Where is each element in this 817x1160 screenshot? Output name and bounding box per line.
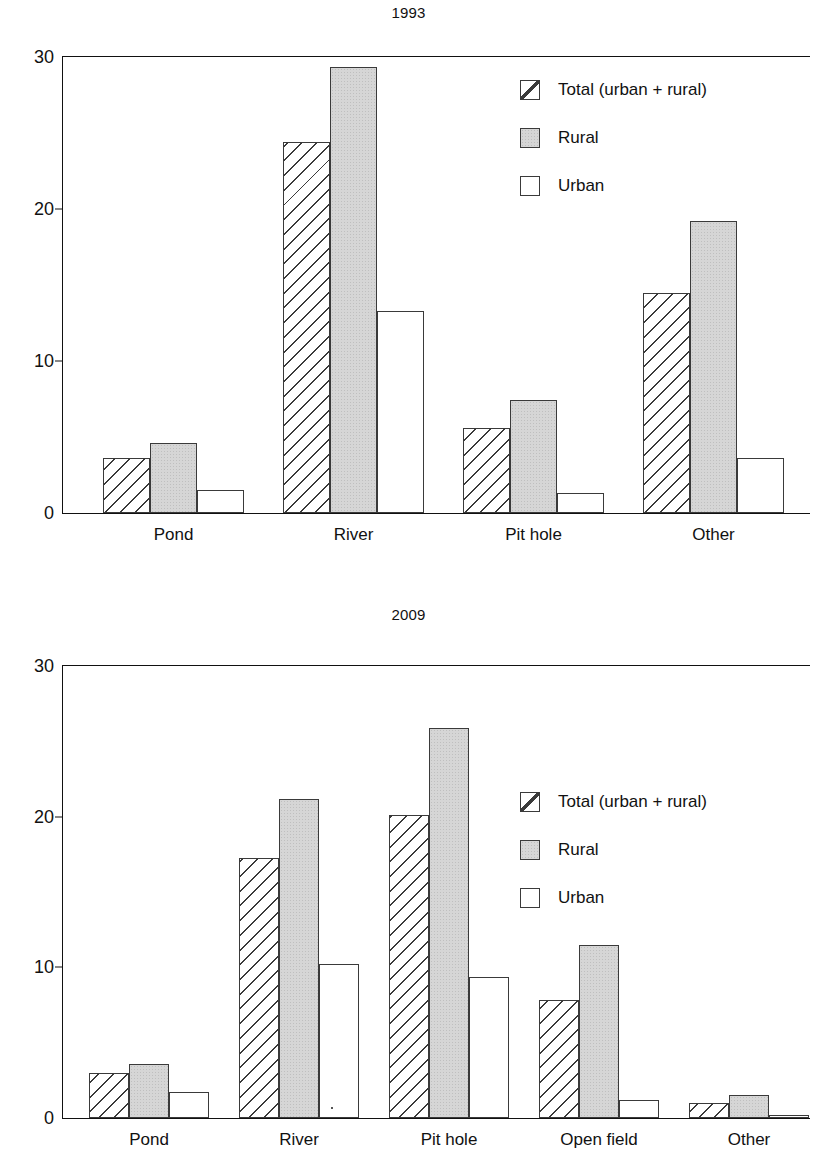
x-axis-label-pit-hole: Pit hole [421, 1130, 478, 1150]
y-tick-mark [55, 360, 63, 361]
bar-river-urban [319, 964, 359, 1118]
x-axis-label-pond: Pond [129, 1130, 169, 1150]
legend-2009: Total (urban + rural) Rural Urban [520, 790, 707, 934]
bar-pond-rural [150, 443, 197, 513]
bar-river-urban [377, 311, 424, 513]
bar-river-rural [330, 67, 377, 513]
bar-open-field-urban [619, 1100, 659, 1118]
bar-pond-urban [197, 490, 244, 513]
bar-pit-hole-rural [429, 728, 469, 1118]
white-swatch-icon [520, 176, 540, 196]
legend-label-urban: Urban [558, 888, 604, 908]
bar-other-total [643, 293, 690, 513]
y-tick-mark [55, 208, 63, 209]
bar-pit-hole-total [389, 815, 429, 1118]
legend-label-urban: Urban [558, 176, 604, 196]
chart-figure-2009: 2009 30 20 10 0 PondRiverPit holeOpen fi… [0, 600, 817, 1160]
hatched-swatch-icon [520, 80, 540, 100]
bar-pond-rural [129, 1064, 169, 1118]
legend-label-total: Total (urban + rural) [558, 80, 707, 100]
gray-filled-swatch-icon [520, 840, 540, 860]
scan-speck [331, 1107, 333, 1109]
bar-pit-hole-urban [557, 493, 604, 513]
legend-item-rural: Rural [520, 838, 707, 862]
bar-pit-hole-urban [469, 977, 509, 1118]
bar-pit-hole-rural [510, 400, 557, 513]
legend-item-rural: Rural [520, 126, 707, 150]
x-axis-label-other: Other [728, 1130, 771, 1150]
hatched-swatch-icon [520, 792, 540, 812]
legend-1993: Total (urban + rural) Rural Urban [520, 78, 707, 222]
legend-item-total: Total (urban + rural) [520, 790, 707, 814]
gray-filled-swatch-icon [520, 128, 540, 148]
bar-other-rural [690, 221, 737, 513]
bar-other-urban [737, 458, 784, 513]
bar-pond-total [89, 1073, 129, 1118]
y-tick-mark [55, 816, 63, 817]
bar-other-rural [729, 1095, 769, 1118]
x-axis-label-open-field: Open field [560, 1130, 638, 1150]
chart-figure-1993: 1993 30 20 10 0 PondRiverPit holeOther T… [0, 0, 817, 580]
bar-other-total [689, 1103, 729, 1118]
legend-label-total: Total (urban + rural) [558, 792, 707, 812]
x-axis-label-river: River [334, 525, 374, 545]
x-axis-label-pond: Pond [154, 525, 194, 545]
bar-pit-hole-total [463, 428, 510, 513]
bar-river-rural [279, 799, 319, 1118]
white-swatch-icon [520, 888, 540, 908]
chart-title-1993: 1993 [0, 4, 817, 21]
x-axis-label-other: Other [692, 525, 735, 545]
bar-pond-urban [169, 1092, 209, 1118]
legend-item-urban: Urban [520, 174, 707, 198]
x-axis-label-pit-hole: Pit hole [505, 525, 562, 545]
chart-title-2009: 2009 [0, 606, 817, 623]
bar-pond-total [103, 458, 150, 513]
bar-other-urban [769, 1115, 809, 1118]
legend-label-rural: Rural [558, 128, 599, 148]
bar-river-total [239, 858, 279, 1118]
bar-open-field-rural [579, 945, 619, 1118]
bar-open-field-total [539, 1000, 579, 1118]
legend-item-urban: Urban [520, 886, 707, 910]
y-tick-mark [55, 967, 63, 968]
bar-river-total [283, 142, 330, 513]
legend-label-rural: Rural [558, 840, 599, 860]
x-axis-label-river: River [279, 1130, 319, 1150]
legend-item-total: Total (urban + rural) [520, 78, 707, 102]
